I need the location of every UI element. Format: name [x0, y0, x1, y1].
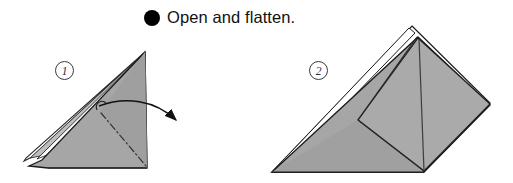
- step-badge-1-label: 1: [62, 65, 68, 77]
- origami-figures: [0, 0, 513, 183]
- step-badge-2: 2: [309, 61, 328, 80]
- figure-step-2: [272, 26, 490, 172]
- origami-instruction-diagram: Open and flatten.: [0, 0, 513, 183]
- figure-step-1: [24, 52, 176, 168]
- step-badge-2-label: 2: [316, 65, 322, 77]
- step-badge-1: 1: [55, 61, 74, 80]
